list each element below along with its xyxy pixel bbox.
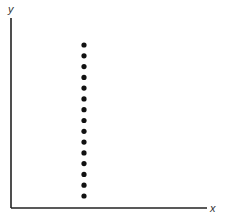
scatter-chart: y x: [0, 0, 226, 220]
x-axis-label: x: [209, 202, 216, 214]
data-point: [81, 86, 86, 91]
data-point: [81, 118, 86, 123]
y-axis-label: y: [7, 3, 15, 15]
data-point: [81, 183, 86, 188]
data-point: [81, 161, 86, 166]
data-point: [81, 107, 86, 112]
data-point: [81, 129, 86, 134]
data-point: [81, 193, 86, 198]
data-point: [81, 96, 86, 101]
data-point: [81, 172, 86, 177]
data-point: [81, 53, 86, 58]
data-points: [81, 42, 86, 198]
data-point: [81, 75, 86, 80]
data-point: [81, 140, 86, 145]
data-point: [81, 42, 86, 47]
data-point: [81, 150, 86, 155]
data-point: [81, 64, 86, 69]
